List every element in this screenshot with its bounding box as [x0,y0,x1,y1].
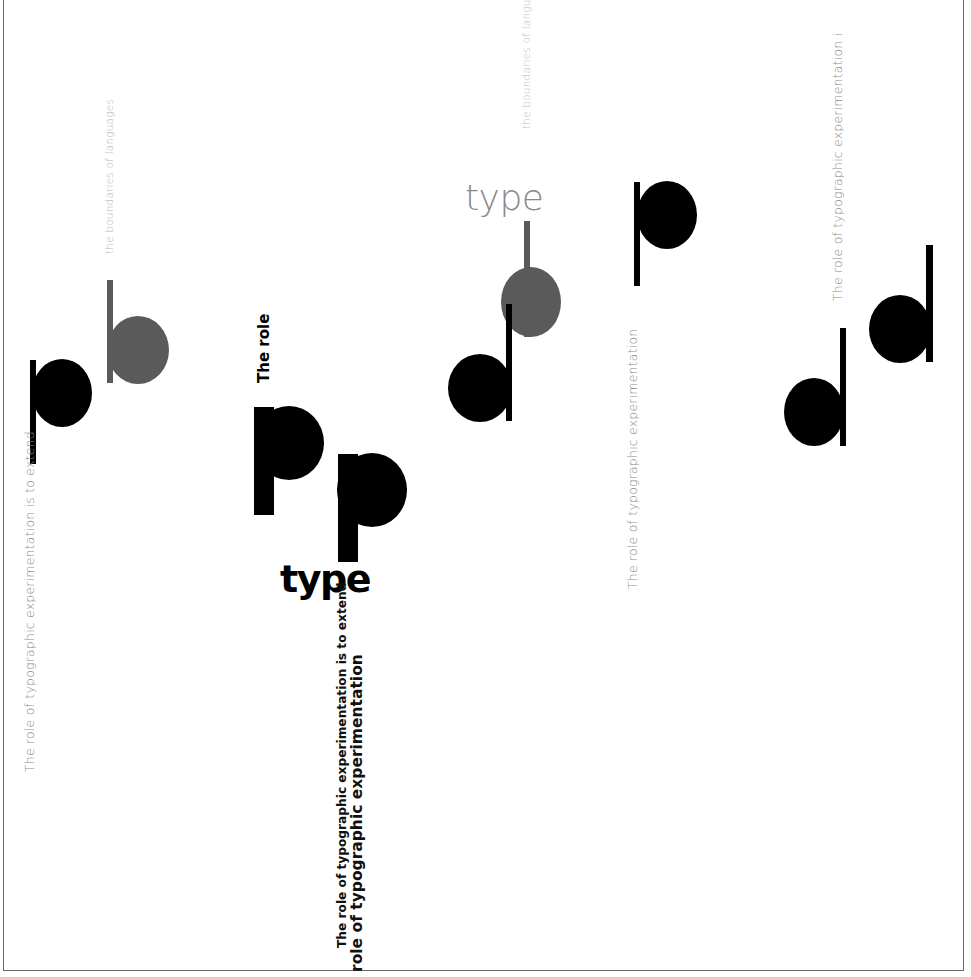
glyph-d-right-upper [869,245,933,363]
mid-right-caption: The role of typographic experimentation [627,329,640,589]
center-the-role-label: The role [257,314,272,383]
center-caption-line2: role of typographic experimentation [350,654,366,972]
glyph-p-center-2 [337,453,407,562]
glyph-d-right-lower [784,328,846,446]
top-type-light: type [465,180,543,216]
glyph-b-left [107,280,169,384]
glyph-p-center-1 [254,406,324,515]
typographic-poster: The role of typographic experimentation … [0,0,971,977]
center-caption-line1: The role of typographic experimentation … [336,583,348,948]
top-boundaries-caption: the boundaries of langua [521,0,532,129]
left-top-caption: the boundaries of languages [104,99,115,254]
far-right-caption: The role of typographic experimentation … [832,33,845,301]
letterform-glyphs [0,0,971,977]
glyph-p-top-right [634,181,697,286]
center-type-bold: type [280,560,370,598]
glyph-d-top-center [448,304,512,422]
left-caption: The role of typographic experimentation … [24,431,37,772]
glyph-p-left [30,359,92,464]
